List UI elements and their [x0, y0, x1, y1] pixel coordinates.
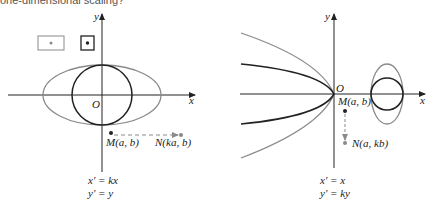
y-axis-label: y — [324, 10, 330, 22]
square-dot — [86, 41, 89, 44]
origin-label: O — [92, 98, 100, 110]
y-axis-label: y — [93, 10, 99, 22]
equation-2: y′ = ky — [319, 187, 350, 199]
point-m-label: M(a, b) — [337, 95, 371, 108]
origin-label: O — [336, 82, 344, 94]
point-m-label: M(a, b) — [105, 136, 139, 149]
x-axis-label: x — [419, 94, 425, 106]
equation-1: x′ = x — [319, 174, 345, 186]
point-n-label: N(ka, b) — [154, 136, 191, 149]
rect-dot — [50, 42, 53, 45]
right-diagram: y x O M(a, b) N(a, kb) x′ = x y′ = ky — [240, 10, 425, 199]
equation-2: y′ = y — [87, 187, 113, 199]
point-m-dot — [343, 109, 347, 113]
equation-1: x′ = kx — [87, 174, 118, 186]
point-n-dot — [343, 141, 347, 145]
x-axis-label: x — [188, 94, 194, 106]
gray-parabola — [241, 33, 334, 158]
point-n-label: N(a, kb) — [351, 137, 388, 150]
point-m-dot — [109, 131, 113, 135]
left-diagram: y x O M(a, b) N(ka, b) x′ = kx y′ = y — [8, 10, 195, 199]
